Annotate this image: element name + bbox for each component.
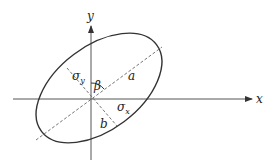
major-axis-dashed bbox=[36, 47, 162, 140]
minor-axis-label: b bbox=[100, 117, 108, 131]
sigma-y-label: σy bbox=[72, 69, 85, 85]
beta-label: β bbox=[93, 79, 101, 93]
sigma-x-label: σx bbox=[117, 100, 130, 116]
major-axis-label: a bbox=[128, 69, 135, 83]
ellipse-diagram: y x σy σx β a b bbox=[0, 0, 271, 168]
x-axis-label: x bbox=[256, 92, 263, 106]
y-axis-label: y bbox=[86, 9, 94, 23]
